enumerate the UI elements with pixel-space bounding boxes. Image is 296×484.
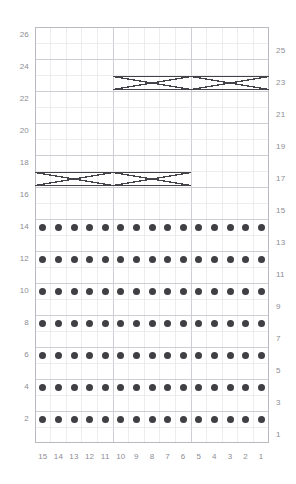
column-label: 14 (50, 453, 66, 461)
row-label-left: 12 (5, 255, 29, 263)
cable-row17-left (113, 173, 191, 186)
column-label: 6 (175, 453, 191, 461)
column-label: 15 (35, 453, 51, 461)
row-label-right: 19 (276, 143, 296, 151)
row-label-left: 6 (5, 351, 29, 359)
column-label: 2 (238, 453, 254, 461)
column-label: 12 (82, 453, 98, 461)
cable-symbol-layer (35, 27, 269, 443)
row-label-left: 16 (5, 191, 29, 199)
row-label-right: 5 (276, 367, 296, 375)
column-label: 7 (160, 453, 176, 461)
row-label-right: 1 (276, 431, 296, 439)
row-label-right: 11 (276, 271, 296, 279)
row-label-right: 17 (276, 175, 296, 183)
cable-row23-left (191, 77, 269, 90)
column-label: 3 (222, 453, 238, 461)
column-label: 8 (144, 453, 160, 461)
row-label-left: 2 (5, 415, 29, 423)
row-label-left: 8 (5, 319, 29, 327)
row-label-left: 14 (5, 223, 29, 231)
stitch-chart: 2624222018161412108642 25232119171513119… (0, 0, 296, 484)
row-label-left: 18 (5, 159, 29, 167)
column-label: 13 (66, 453, 82, 461)
chart-grid-area (35, 27, 269, 443)
row-label-right: 15 (276, 207, 296, 215)
row-label-right: 23 (276, 79, 296, 87)
row-label-left: 10 (5, 287, 29, 295)
column-label: 9 (128, 453, 144, 461)
column-label: 10 (113, 453, 129, 461)
column-label: 5 (191, 453, 207, 461)
row-label-left: 20 (5, 127, 29, 135)
cable-row23-right (113, 77, 191, 90)
row-label-left: 22 (5, 95, 29, 103)
column-label: 1 (253, 453, 269, 461)
row-label-left: 24 (5, 63, 29, 71)
cable-row17-right (35, 173, 113, 186)
row-label-right: 9 (276, 303, 296, 311)
column-label: 4 (206, 453, 222, 461)
row-label-right: 3 (276, 399, 296, 407)
row-label-right: 13 (276, 239, 296, 247)
row-label-right: 25 (276, 47, 296, 55)
row-label-right: 21 (276, 111, 296, 119)
row-label-left: 26 (5, 31, 29, 39)
row-label-right: 7 (276, 335, 296, 343)
row-label-left: 4 (5, 383, 29, 391)
column-label: 11 (97, 453, 113, 461)
